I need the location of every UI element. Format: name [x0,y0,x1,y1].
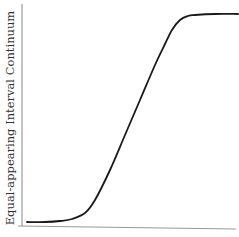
x-axis [18,226,236,229]
y-axis-label: Equal-appearing Interval Continuum [3,8,17,228]
sigmoid-curve [27,14,238,222]
sigmoid-chart [0,0,239,237]
